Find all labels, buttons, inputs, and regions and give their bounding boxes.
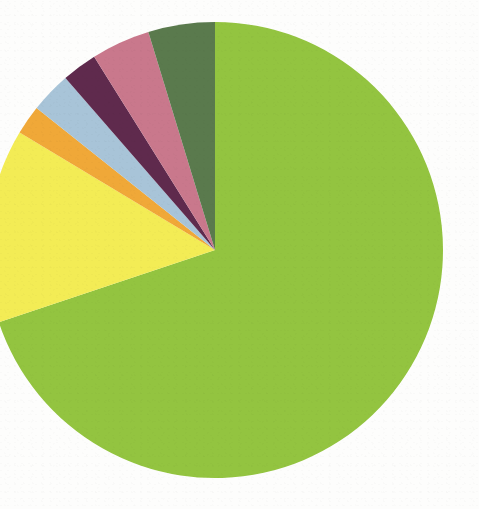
pie-chart-page: [0, 0, 479, 509]
pie-chart: [0, 0, 479, 509]
pie-slices-group: [0, 22, 443, 478]
